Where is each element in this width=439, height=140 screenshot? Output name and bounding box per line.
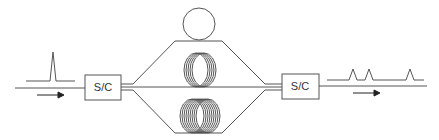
right-sc-label: S/C bbox=[282, 79, 318, 93]
top-arm bbox=[133, 41, 265, 84]
ring-resonator bbox=[183, 8, 215, 40]
output-pulse-train bbox=[327, 69, 424, 80]
left-sc-label: S/C bbox=[85, 80, 121, 94]
delay-line-diagram bbox=[0, 0, 439, 140]
fiber-coil-lower bbox=[180, 99, 220, 133]
fiber-coil-upper bbox=[184, 53, 216, 87]
input-pulse bbox=[26, 52, 75, 81]
